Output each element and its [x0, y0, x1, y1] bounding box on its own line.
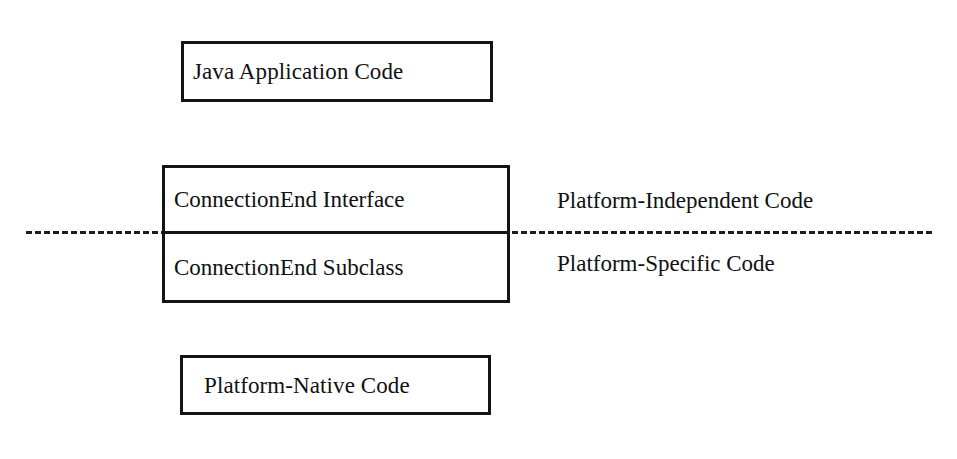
box-connection-end-subclass: ConnectionEnd Subclass	[165, 234, 507, 300]
box-connection-end-stack: ConnectionEnd Interface ConnectionEnd Su…	[162, 165, 510, 303]
annotation-platform-independent-code: Platform-Independent Code	[557, 189, 813, 212]
box-connection-end-interface-label: ConnectionEnd Interface	[165, 188, 405, 211]
box-platform-native-code-label: Platform-Native Code	[183, 374, 410, 397]
diagram-canvas: Java Application Code ConnectionEnd Inte…	[0, 0, 957, 459]
box-java-application-code: Java Application Code	[181, 41, 493, 102]
box-platform-native-code: Platform-Native Code	[180, 355, 491, 415]
box-connection-end-subclass-label: ConnectionEnd Subclass	[165, 256, 403, 279]
box-connection-end-interface: ConnectionEnd Interface	[165, 168, 507, 234]
box-java-application-code-label: Java Application Code	[184, 60, 403, 83]
annotation-platform-specific-code: Platform-Specific Code	[557, 252, 775, 275]
